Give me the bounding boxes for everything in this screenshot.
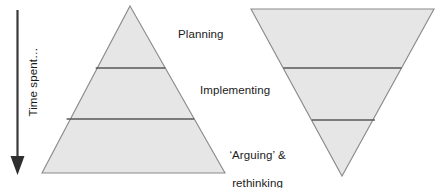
- stage-label-arguing-rethinking: ‘Arguing’ & rethinking: [213, 134, 289, 188]
- figure-time-spent-pyramids: Time spent… Planning Implementing ‘Argui…: [0, 0, 439, 188]
- stage-label-planning: Planning: [178, 27, 224, 41]
- stage-label-arguing-line1: ‘Arguing’ &: [229, 149, 285, 161]
- time-axis-label: Time spent…: [24, 0, 42, 176]
- time-arrow-head: [11, 156, 25, 175]
- stage-label-implementing: Implementing: [200, 83, 270, 97]
- time-arrow: [11, 10, 25, 175]
- stage-label-arguing-line2: rethinking: [232, 177, 283, 188]
